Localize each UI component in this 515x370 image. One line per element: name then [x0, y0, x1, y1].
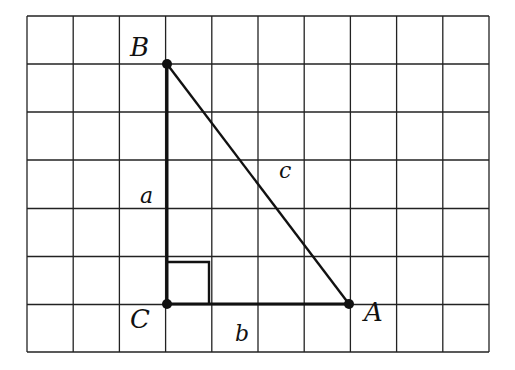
- vertex-a-dot: [344, 299, 354, 309]
- vertex-label-b: B: [129, 32, 149, 62]
- side-label-c: c: [279, 158, 291, 183]
- right-angle-marker: [167, 262, 209, 304]
- side-label-b: b: [235, 321, 249, 346]
- vertex-c-dot: [162, 299, 172, 309]
- side-label-a: a: [140, 183, 153, 208]
- vertex-label-a: A: [362, 297, 383, 327]
- vertex-b-dot: [162, 59, 172, 69]
- vertex-label-c: C: [130, 304, 150, 334]
- triangle-diagram: B C A a b c: [0, 0, 515, 370]
